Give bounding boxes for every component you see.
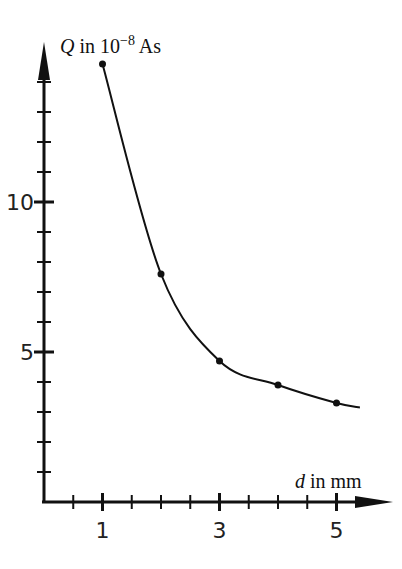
- y-tick-label: 5: [20, 340, 34, 365]
- data-point: [333, 400, 340, 407]
- data-point: [275, 382, 282, 389]
- y-tick-label: 10: [6, 190, 34, 215]
- chart: 135510 Q in 10−8 As d in mm: [0, 0, 402, 569]
- y-axis-arrow-icon: [38, 42, 50, 80]
- data-point: [216, 358, 223, 365]
- axes: [38, 42, 393, 508]
- x-tick-label: 1: [96, 518, 110, 543]
- x-axis-label: d in mm: [295, 470, 362, 492]
- y-axis-label: Q in 10−8 As: [60, 33, 161, 57]
- x-tick-label: 3: [213, 518, 227, 543]
- x-tick-label: 5: [330, 518, 344, 543]
- data-point: [158, 271, 165, 278]
- data-points: [99, 61, 340, 407]
- fit-curve-path: [103, 64, 360, 408]
- x-axis-arrow-icon: [355, 496, 393, 508]
- fit-curve: [103, 64, 360, 408]
- data-point: [99, 61, 106, 68]
- labels: Q in 10−8 As d in mm: [60, 33, 362, 492]
- ticks: 135510: [6, 82, 344, 543]
